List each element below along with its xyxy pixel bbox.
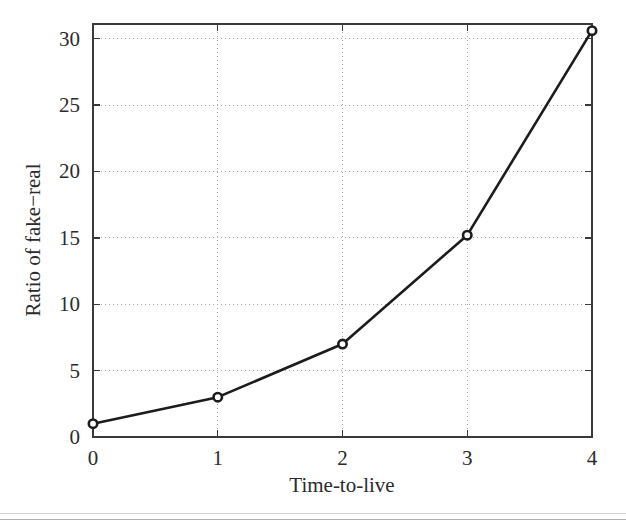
series-data-point [463, 231, 471, 239]
y-tick-label: 15 [59, 226, 80, 250]
x-axis-tick-labels: 01234 [88, 446, 598, 470]
data-series [89, 26, 596, 427]
series-data-point [588, 26, 596, 34]
y-tick-label: 10 [59, 292, 80, 316]
plot-frame [93, 24, 592, 437]
x-tick-label: 0 [88, 446, 99, 470]
series-data-point [338, 340, 346, 348]
x-tick-label: 3 [462, 446, 473, 470]
y-tick-label: 30 [59, 27, 80, 51]
x-axis-title: Time-to-live [289, 473, 394, 497]
series-data-point [214, 393, 222, 401]
scan-artifact-lower [0, 519, 626, 520]
grid-lines [93, 24, 592, 437]
scan-artifact-upper [0, 513, 626, 514]
y-axis-title: Ratio of fake−real [21, 163, 45, 316]
y-tick-label: 0 [70, 425, 81, 449]
x-axis-ticks [93, 24, 592, 437]
x-tick-label: 1 [213, 446, 224, 470]
x-tick-label: 2 [337, 446, 348, 470]
y-axis-tick-labels: 051015202530 [59, 27, 80, 449]
series-data-point [89, 420, 97, 428]
x-tick-label: 4 [587, 446, 598, 470]
figure-page: 051015202530 01234 Time-to-live Ratio of… [0, 0, 626, 523]
y-tick-label: 20 [59, 159, 80, 183]
series-markers [89, 26, 596, 427]
y-tick-label: 5 [70, 359, 81, 383]
line-chart-figure: 051015202530 01234 Time-to-live Ratio of… [0, 0, 626, 523]
chart-canvas: 051015202530 01234 Time-to-live Ratio of… [0, 0, 626, 523]
y-tick-label: 25 [59, 93, 80, 117]
plot-border [93, 24, 592, 437]
